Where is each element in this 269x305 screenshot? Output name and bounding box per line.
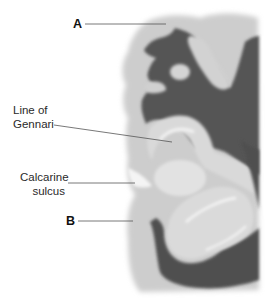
label-line-of-gennari-line1: Line of [13, 103, 48, 117]
label-calcarine-line1: Calcarine [20, 170, 65, 184]
label-B: B [66, 214, 75, 228]
cortex-section-image [0, 0, 269, 305]
calcarine-gyrus-pale [154, 160, 206, 196]
label-A: A [73, 17, 82, 31]
gyrus-island-small [170, 64, 190, 80]
brain-section-figure: A Line of Gennari Calcarine sulcus B [0, 0, 269, 305]
label-calcarine-line2: sulcus [20, 184, 65, 198]
label-line-of-gennari-line2: Gennari [13, 117, 54, 131]
